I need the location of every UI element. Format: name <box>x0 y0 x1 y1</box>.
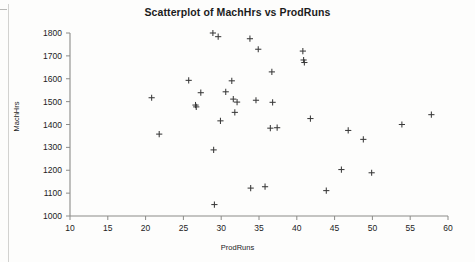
data-point-marker <box>300 48 306 54</box>
data-point-marker <box>338 166 344 172</box>
data-point-marker <box>156 131 162 137</box>
y-axis-ticks: 100011001200130014001500160017001800 <box>43 28 70 221</box>
data-point-layer <box>149 30 435 208</box>
data-point-marker <box>223 89 229 95</box>
x-axis-ticks: 1015202530354045505560 <box>65 216 453 233</box>
data-point-marker <box>428 112 434 118</box>
data-point-marker <box>230 96 236 102</box>
y-tick-label: 1200 <box>43 165 62 175</box>
data-point-marker <box>232 109 238 115</box>
y-tick-label: 1300 <box>43 142 62 152</box>
plot-area: 100011001200130014001500160017001800 101… <box>0 0 475 262</box>
data-point-marker <box>269 69 275 75</box>
data-point-marker <box>198 90 204 96</box>
data-point-marker <box>255 46 261 52</box>
y-tick-label: 1000 <box>43 211 62 221</box>
x-tick-label: 55 <box>405 223 415 233</box>
x-tick-label: 15 <box>103 223 113 233</box>
data-point-marker <box>211 147 217 153</box>
data-point-marker <box>345 127 351 133</box>
data-point-marker <box>270 99 276 105</box>
data-point-marker <box>215 34 221 40</box>
x-tick-label: 25 <box>179 223 189 233</box>
data-point-marker <box>217 118 223 124</box>
y-tick-label: 1400 <box>43 120 62 130</box>
x-tick-label: 10 <box>65 223 75 233</box>
scatterplot-figure: Scatterplot of MachHrs vs ProdRuns MachH… <box>0 0 475 262</box>
data-point-marker <box>211 201 217 207</box>
x-tick-label: 35 <box>254 223 264 233</box>
y-tick-label: 1700 <box>43 51 62 61</box>
x-tick-label: 30 <box>216 223 226 233</box>
x-tick-label: 50 <box>368 223 378 233</box>
data-point-marker <box>186 77 192 83</box>
data-point-marker <box>210 30 216 36</box>
y-tick-label: 1600 <box>43 74 62 84</box>
data-point-marker <box>234 99 240 105</box>
data-point-marker <box>262 184 268 190</box>
data-point-marker <box>323 188 329 194</box>
data-point-marker <box>274 125 280 131</box>
data-point-marker <box>267 125 273 131</box>
y-tick-label: 1500 <box>43 97 62 107</box>
x-tick-label: 20 <box>141 223 151 233</box>
data-point-marker <box>247 36 253 42</box>
data-point-marker <box>399 121 405 127</box>
x-tick-label: 45 <box>330 223 340 233</box>
axes <box>70 33 448 216</box>
data-point-marker <box>369 170 375 176</box>
scatter-svg: 100011001200130014001500160017001800 101… <box>0 0 475 262</box>
y-tick-label: 1800 <box>43 28 62 38</box>
data-point-marker <box>248 185 254 191</box>
x-tick-label: 40 <box>292 223 302 233</box>
data-point-marker <box>360 136 366 142</box>
data-point-marker <box>149 95 155 101</box>
y-tick-label: 1100 <box>44 188 63 198</box>
x-tick-label: 60 <box>443 223 453 233</box>
data-point-marker <box>253 97 259 103</box>
data-point-marker <box>307 115 313 121</box>
data-point-marker <box>229 78 235 84</box>
